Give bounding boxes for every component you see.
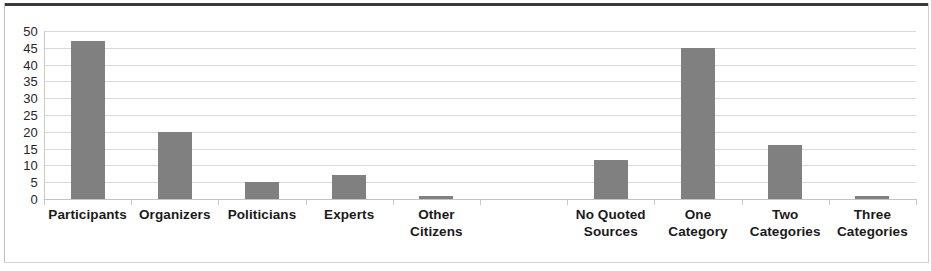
x-axis-tick (480, 199, 481, 205)
x-axis-category-label: Experts (306, 206, 393, 223)
bar-slot (218, 31, 305, 199)
bars-layer (44, 31, 916, 199)
category-label-line-1: Two (772, 207, 798, 222)
x-axis-tick (829, 199, 830, 205)
category-label-line-1: Three (854, 207, 891, 222)
category-label-line-1: One (685, 207, 712, 222)
bar (158, 132, 192, 199)
y-axis-tick-label: 50 (23, 25, 38, 38)
category-label-line-2: Sources (567, 223, 654, 240)
bar-slot (306, 31, 393, 199)
y-axis-tick-label: 35 (23, 75, 38, 88)
bar (332, 175, 366, 199)
x-axis-category-label: OneCategory (654, 206, 741, 240)
y-axis-tick-label: 5 (31, 176, 38, 189)
category-label-line-1: Organizers (139, 207, 211, 222)
x-axis-category-label: OtherCitizens (393, 206, 480, 240)
bar-slot (480, 31, 567, 199)
y-axis-tick-label: 25 (23, 109, 38, 122)
x-axis-category-label: Organizers (131, 206, 218, 223)
y-axis-tick-label: 30 (23, 92, 38, 105)
chart-frame-bottom-border (4, 262, 929, 263)
y-axis-tick-label: 45 (23, 41, 38, 54)
x-axis-category-label: Politicians (218, 206, 305, 223)
x-axis-category-labels: ParticipantsOrganizersPoliticiansExperts… (44, 206, 916, 262)
x-axis-tick (654, 199, 655, 205)
chart-frame-top-border (4, 3, 929, 6)
category-label-line-1: No Quoted (576, 207, 646, 222)
category-label-line-1: Other (418, 207, 455, 222)
category-label-line-2: Citizens (393, 223, 480, 240)
bar-slot (131, 31, 218, 199)
y-axis-tick-label: 40 (23, 58, 38, 71)
x-axis-tick (567, 199, 568, 205)
bar (681, 48, 715, 199)
x-axis-tick (393, 199, 394, 205)
bar-chart-figure: 50454035302520151050 ParticipantsOrganiz… (0, 0, 931, 271)
bar-slot (393, 31, 480, 199)
bar (71, 41, 105, 199)
x-axis-ticks (44, 199, 916, 206)
x-axis-tick (306, 199, 307, 205)
category-label-line-1: Politicians (228, 207, 297, 222)
y-axis-tick-label: 20 (23, 125, 38, 138)
x-axis-tick (218, 199, 219, 205)
category-label-line-1: Participants (48, 207, 126, 222)
y-axis-tick-labels: 50454035302520151050 (0, 31, 38, 199)
y-axis-tick-label: 0 (31, 193, 38, 206)
category-label-line-2: Categories (829, 223, 916, 240)
x-axis-tick (742, 199, 743, 205)
chart-frame-right-border (928, 3, 929, 263)
x-axis-tick (44, 199, 45, 205)
bar (245, 182, 279, 199)
bar-slot (654, 31, 741, 199)
plot-area (44, 31, 916, 199)
category-label-line-2: Category (654, 223, 741, 240)
bar-slot (44, 31, 131, 199)
bar (768, 145, 802, 199)
y-axis-tick-label: 15 (23, 142, 38, 155)
x-axis-tick (131, 199, 132, 205)
bar-slot (742, 31, 829, 199)
bar-slot (567, 31, 654, 199)
category-label-line-2: Categories (742, 223, 829, 240)
x-axis-category-label: ThreeCategories (829, 206, 916, 240)
x-axis-category-label: Participants (44, 206, 131, 223)
y-axis-tick-label: 10 (23, 159, 38, 172)
bar (594, 160, 628, 199)
x-axis-category-label: No QuotedSources (567, 206, 654, 240)
category-label-line-1: Experts (324, 207, 374, 222)
bar-slot (829, 31, 916, 199)
x-axis-tick (916, 199, 917, 205)
x-axis-category-label: TwoCategories (742, 206, 829, 240)
